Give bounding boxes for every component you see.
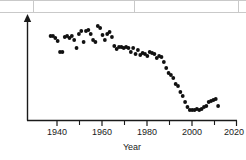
data-point: [176, 84, 180, 88]
data-point: [129, 50, 133, 54]
y-axis-arrowhead: [24, 14, 31, 22]
data-point: [70, 34, 74, 38]
x-axis-title: Year: [123, 142, 141, 152]
data-point: [153, 52, 157, 56]
data-point: [98, 26, 102, 30]
data-point: [164, 66, 168, 70]
data-point: [127, 46, 131, 50]
data-point: [101, 33, 105, 37]
x-tick-label-1980: 1980: [137, 127, 157, 137]
data-point: [110, 35, 114, 39]
data-point: [204, 104, 208, 108]
data-point: [162, 60, 166, 64]
data-point: [79, 29, 83, 33]
data-point: [86, 28, 90, 32]
data-point: [112, 44, 116, 48]
data-point: [171, 76, 175, 80]
data-point: [214, 97, 218, 101]
x-tick-label-2020: 2020: [224, 127, 244, 137]
measles-cases-figure: 1940 1960 1980 2000 2020 Year Number of …: [0, 0, 246, 160]
data-point: [77, 32, 81, 36]
data-point: [136, 48, 140, 52]
data-point: [103, 38, 107, 42]
data-point: [181, 94, 185, 98]
data-point: [60, 50, 64, 54]
data-point: [145, 54, 149, 58]
data-point: [131, 46, 135, 50]
data-point: [53, 36, 57, 40]
data-point: [169, 73, 173, 77]
data-point: [186, 105, 190, 109]
data-point: [89, 32, 93, 36]
x-major-ticks: [57, 121, 237, 127]
data-point: [160, 55, 164, 59]
data-point: [82, 40, 86, 44]
data-point: [216, 104, 220, 108]
x-tick-label-1940: 1940: [47, 127, 67, 137]
x-tick-label-1960: 1960: [92, 127, 112, 137]
data-point: [134, 52, 138, 56]
data-point-group: [49, 24, 220, 112]
plot-axes: [0, 0, 246, 160]
scatter-plot: 1940 1960 1980 2000 2020 Year Number of …: [0, 0, 246, 160]
data-point: [75, 46, 79, 50]
data-point: [178, 90, 182, 94]
data-point: [94, 40, 98, 44]
x-tick-label-2000: 2000: [182, 127, 202, 137]
data-point: [183, 100, 187, 104]
data-point: [56, 39, 60, 43]
data-point: [72, 38, 76, 42]
data-point: [108, 30, 112, 34]
